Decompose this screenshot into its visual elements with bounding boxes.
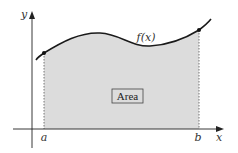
y-axis-label: y (20, 8, 28, 21)
upper-bound-label: b (194, 131, 201, 144)
point-a-marker (42, 51, 46, 55)
point-b-marker (197, 28, 201, 32)
lower-bound-label: a (41, 131, 48, 144)
integral-diagram: Area f(x) y x a b (0, 0, 238, 153)
shaded-area (44, 30, 199, 129)
function-label: f(x) (136, 31, 156, 44)
area-label: Area (117, 90, 138, 102)
x-axis-label: x (216, 131, 223, 144)
y-axis-arrow-icon (29, 11, 35, 19)
